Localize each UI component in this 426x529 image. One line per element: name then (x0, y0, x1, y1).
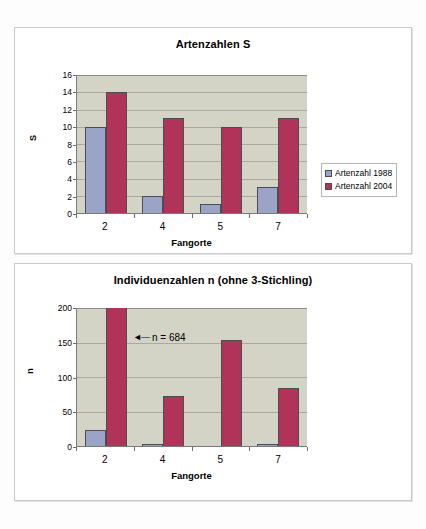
x-axis-species: 2 4 5 7 (76, 214, 307, 232)
chart-panel-individuals: Individuenzahlen n (ohne 3-Stichling) n … (14, 263, 412, 501)
x-tick-label: 2 (76, 214, 134, 232)
bar-group (250, 308, 308, 446)
y-tick-50: 50 (46, 407, 72, 417)
x-tick-label: 4 (134, 447, 192, 465)
bar-group (192, 75, 250, 213)
bar-1988-site7[interactable] (257, 444, 278, 446)
bar-2004-site4[interactable] (163, 396, 184, 446)
y-tick-100: 100 (46, 373, 72, 383)
y-tick-4: 4 (46, 174, 72, 184)
x-axis-individuals: 2 4 5 7 (76, 447, 307, 465)
bar-2004-site2[interactable] (106, 308, 127, 446)
y-tick-8: 8 (46, 140, 72, 150)
bar-2004-site2[interactable] (106, 92, 127, 213)
bar-1988-site2[interactable] (85, 127, 106, 213)
y-tick-12: 12 (46, 105, 72, 115)
plot-individuals: n 0 50 100 150 200 (76, 308, 307, 447)
legend-label: Artenzahl 1988 (335, 167, 392, 180)
bar-2004-site7[interactable] (278, 388, 299, 446)
y-tick-6: 6 (46, 157, 72, 167)
annotation-n-684: ◄— n = 684 (133, 332, 186, 343)
bar-group (135, 308, 193, 446)
annotation-label: n = 684 (152, 332, 186, 343)
y-tick-150: 150 (46, 338, 72, 348)
x-axis-label-species: Fangorte (76, 237, 307, 248)
y-tick-0: 0 (46, 209, 72, 219)
legend-item[interactable]: Artenzahl 1988 (325, 167, 392, 180)
y-axis-label-individuals: n (25, 368, 35, 374)
x-tick-label: 2 (76, 447, 134, 465)
bar-1988-site2[interactable] (85, 430, 106, 446)
x-axis-label-individuals: Fangorte (76, 470, 307, 481)
bar-group-container-individuals (77, 308, 307, 446)
bar-2004-site7[interactable] (278, 118, 299, 213)
y-tick-10: 10 (46, 122, 72, 132)
bar-2004-site5[interactable] (221, 127, 242, 213)
bar-2004-site5[interactable] (221, 340, 242, 446)
chart-title-individuals: Individuenzahlen n (ohne 3-Stichling) (15, 274, 411, 286)
x-tick-label: 4 (134, 214, 192, 232)
bar-1988-site7[interactable] (257, 187, 278, 213)
bar-group (250, 75, 308, 213)
bar-1988-site4[interactable] (142, 444, 163, 446)
legend-item[interactable]: Artenzahl 2004 (325, 180, 392, 193)
x-tick-label: 7 (249, 214, 307, 232)
plot-area-species (76, 75, 307, 214)
bar-group (135, 75, 193, 213)
x-tick-label: 5 (192, 447, 250, 465)
bar-2004-site4[interactable] (163, 118, 184, 213)
legend-swatch-icon (325, 183, 332, 190)
bar-group-container-species (77, 75, 307, 213)
bar-group (192, 308, 250, 446)
legend-species: Artenzahl 1988 Artenzahl 2004 (321, 163, 397, 197)
plot-species: S 0 2 4 6 8 10 12 14 16 (76, 75, 307, 214)
x-tick-mark (307, 214, 308, 218)
y-tick-14: 14 (46, 87, 72, 97)
x-tick-mark (307, 447, 308, 451)
bar-1988-site4[interactable] (142, 196, 163, 213)
x-tick-label: 7 (249, 447, 307, 465)
bar-group (77, 308, 135, 446)
legend-swatch-icon (325, 170, 332, 177)
y-tick-2: 2 (46, 192, 72, 202)
chart-panel-species: Artenzahlen S S 0 2 4 6 8 10 12 14 16 (14, 27, 412, 254)
chart-title-species: Artenzahlen S (15, 38, 411, 50)
bar-1988-site5[interactable] (200, 204, 221, 213)
left-arrow-icon: ◄— (133, 333, 149, 342)
y-tick-16: 16 (46, 70, 72, 80)
plot-area-individuals: ◄— n = 684 (76, 308, 307, 447)
y-tick-0: 0 (46, 442, 72, 452)
y-axis-label-species: S (28, 135, 38, 141)
bar-group (77, 75, 135, 213)
y-tick-200: 200 (46, 303, 72, 313)
legend-label: Artenzahl 2004 (335, 180, 392, 193)
figure-page: Artenzahlen S S 0 2 4 6 8 10 12 14 16 (0, 0, 426, 529)
x-tick-label: 5 (192, 214, 250, 232)
